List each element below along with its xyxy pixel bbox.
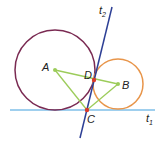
label-t2: t2 <box>99 4 106 18</box>
label-t1: t1 <box>146 112 153 126</box>
label-b: B <box>122 79 129 91</box>
point-b <box>116 82 120 86</box>
label-d: D <box>84 69 92 81</box>
point-a <box>53 68 57 72</box>
label-c: C <box>87 113 95 125</box>
tangent-circles-diagram: A B C D t1 t2 <box>0 0 162 144</box>
point-d <box>92 78 96 82</box>
point-c <box>85 108 89 112</box>
label-a: A <box>41 61 49 73</box>
